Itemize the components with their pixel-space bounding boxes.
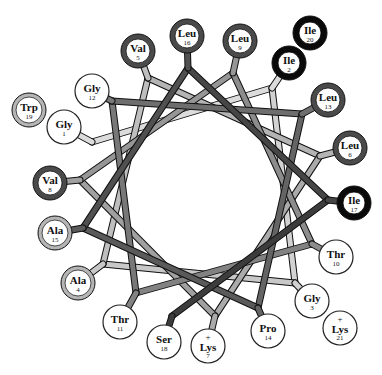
residue-number: 7 (206, 352, 210, 360)
residue-name: Ala (47, 224, 64, 236)
residue-gly-3: Gly3 (295, 284, 329, 318)
residue-val-8: Val8 (33, 166, 67, 200)
residue-number: 10 (333, 260, 341, 268)
backbone-links (80, 68, 328, 316)
residue-pro-14: Pro14 (251, 314, 285, 348)
residue-name: Ser (156, 333, 172, 345)
residue-name: Leu (178, 27, 196, 39)
residue-name: Ala (70, 274, 87, 286)
residue-trp-19: Trp19 (12, 93, 46, 127)
residue-name: Ile (283, 54, 295, 66)
residue-leu-16: Leu16 (170, 19, 204, 53)
residue-number: 15 (52, 236, 60, 244)
residue-leu-13: Leu13 (311, 83, 345, 117)
residue-gly-12: Gly12 (75, 74, 109, 108)
residue-name: Thr (111, 313, 129, 325)
residue-number: 2 (287, 66, 291, 74)
residue-name: Gly (83, 82, 101, 94)
residue-number: 18 (161, 345, 169, 353)
residue-name: Thr (327, 248, 345, 260)
residue-number: 21 (337, 334, 345, 342)
residue-name: Pro (260, 322, 277, 334)
residue-number: 14 (265, 334, 273, 342)
residue-ser-18: Ser18 (147, 325, 181, 359)
residue-val-5: Val5 (121, 34, 155, 68)
residue-name: Gly (303, 292, 321, 304)
residue-name: Ile (348, 194, 360, 206)
residue-name: Leu (231, 32, 249, 44)
backbone-link-16-17 (188, 68, 328, 200)
helical-wheel-canvas: Gly1Ile2Gly3Ala4Val5Leu6+Lys7Val8Leu9Thr… (0, 0, 382, 375)
residue-number: 12 (89, 94, 97, 102)
residue-number: 13 (325, 103, 333, 111)
residue-lys-7: +Lys7 (191, 329, 225, 363)
residue-ala-4: Ala4 (61, 266, 95, 300)
residue-number: 17 (351, 206, 359, 214)
residue-number: 16 (184, 39, 192, 47)
residue-number: 3 (310, 304, 314, 312)
residue-leu-6: Leu6 (333, 131, 367, 165)
residue-number: 1 (62, 130, 66, 138)
residue-lys-21: +Lys21 (323, 311, 357, 345)
residue-thr-11: Thr11 (103, 305, 137, 339)
residue-number: 9 (238, 44, 242, 52)
residue-thr-10: Thr10 (319, 240, 353, 274)
residue-name: Val (42, 174, 58, 186)
residue-name: Leu (341, 139, 359, 151)
residue-number: 20 (307, 36, 315, 44)
residue-gly-1: Gly1 (47, 110, 81, 144)
residue-number: 4 (76, 286, 80, 294)
residue-name: Leu (319, 91, 337, 103)
residue-ile-20: Ile20 (293, 16, 327, 50)
residue-number: 19 (26, 113, 34, 121)
residue-name: Val (130, 42, 146, 54)
residue-name: Ile (304, 24, 316, 36)
residue-name: Gly (55, 118, 73, 130)
residue-leu-9: Leu9 (223, 24, 257, 58)
helical-wheel-diagram: Gly1Ile2Gly3Ala4Val5Leu6+Lys7Val8Leu9Thr… (0, 0, 382, 375)
residue-ile-2: Ile2 (272, 46, 306, 80)
residue-ile-17: Ile17 (337, 186, 371, 220)
residue-number: 11 (117, 325, 124, 333)
residue-number: 5 (136, 54, 140, 62)
residue-ala-15: Ala15 (38, 216, 72, 250)
residue-number: 8 (48, 186, 52, 194)
residue-number: 6 (348, 151, 352, 159)
residue-name: Trp (20, 101, 38, 113)
